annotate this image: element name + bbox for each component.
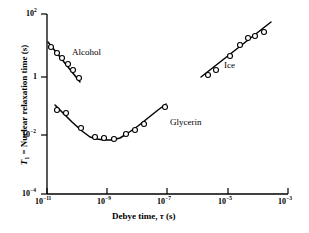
data-point [60, 56, 65, 61]
glycerin-fit-curve [55, 104, 166, 140]
data-point [253, 34, 258, 39]
x-axis-ticks [47, 188, 288, 194]
data-point [93, 135, 98, 140]
series-label-glycerin: Glycerin [170, 117, 202, 127]
data-point [228, 54, 233, 59]
series-glycerin [55, 104, 168, 142]
data-point [79, 126, 84, 131]
t1-symbol: T [19, 160, 29, 166]
data-point [142, 122, 147, 127]
data-point [163, 105, 168, 110]
x-tick-label-1e-5: 10−5 [218, 198, 232, 206]
y-axis-title: T1 = Nuclear relaxation time (s) [13, 10, 31, 200]
data-point [262, 30, 267, 35]
y-axis-title-rest: = Nuclear relaxation time (s) [19, 45, 29, 157]
x-axis-title-unit: (s) [164, 211, 176, 221]
ice-fit-line [201, 22, 271, 77]
x-tick-label-1e-11: 10−11 [35, 198, 51, 206]
y-axis-title-inner: T1 = Nuclear relaxation time (s) [19, 45, 29, 166]
data-point [112, 137, 117, 142]
series-label-ice: Ice [224, 60, 235, 70]
x-axis-title: Debye time, τ (s) [112, 211, 175, 221]
data-point [66, 62, 71, 67]
x-tick-label-1e-3: 10−3 [278, 198, 292, 206]
y-axis-ticks [41, 14, 47, 194]
data-point [55, 51, 60, 56]
series-label-alcohol: Alcohol [72, 47, 101, 57]
x-tick-label-1e-7: 10−7 [157, 198, 171, 206]
data-point [133, 128, 138, 133]
data-point [77, 76, 82, 81]
data-point [49, 45, 54, 50]
data-point [102, 136, 107, 141]
data-point [124, 132, 129, 137]
figure-container: 102 1 10−2 10−4 10−11 10−9 10−7 10−5 10−… [0, 0, 309, 233]
data-point [214, 68, 219, 73]
x-tick-label-1e-9: 10−9 [97, 198, 111, 206]
y-tick-label-1: 1 [33, 73, 37, 81]
data-point [55, 108, 60, 113]
x-axis-title-text: Debye time, [112, 211, 160, 221]
t1-subscript: 1 [24, 157, 30, 160]
data-point [206, 73, 211, 78]
data-point [71, 68, 76, 73]
series-ice [201, 22, 271, 78]
data-point [64, 111, 69, 116]
glycerin-markers [55, 105, 168, 142]
data-point [238, 43, 243, 48]
data-point [246, 36, 251, 41]
axis-lines [47, 14, 288, 194]
ice-markers [206, 30, 267, 78]
